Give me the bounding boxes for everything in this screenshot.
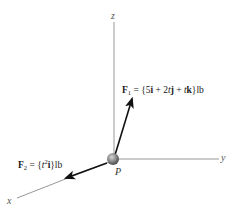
f1-term-plus: +: [174, 85, 184, 95]
point-p-sphere: [107, 153, 119, 165]
f1-unit: lb: [196, 85, 203, 95]
y-axis-label: y: [221, 152, 225, 163]
f2-arrow: [66, 163, 107, 178]
z-axis-label: z: [111, 10, 115, 21]
x-axis-label: x: [7, 195, 11, 206]
f1-equals: = {: [131, 85, 146, 95]
f1-label: F1 = {5i + 2tj + tk}lb: [122, 85, 204, 96]
f1-arrow: [115, 99, 132, 155]
f2-unit: lb: [55, 160, 62, 170]
f2-equals: = {: [27, 160, 42, 170]
point-p-label: P: [115, 166, 121, 177]
f2-label: F2 = {t2i}lb: [18, 158, 62, 171]
f1-term-plus-2: + 2: [153, 85, 168, 95]
force-diagram: [0, 0, 236, 217]
